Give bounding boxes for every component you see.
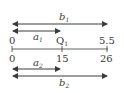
arrow-a1: a1: [13, 31, 60, 43]
label-a1: a1: [33, 31, 43, 43]
top-scale-right: 5.5: [99, 35, 115, 46]
bottom-scale-left: 0: [9, 53, 15, 64]
arrow-b1: b1: [13, 11, 107, 24]
number-line-diagram: b1 a1 0 Q1 5.5 0 15 26 a2 b2: [0, 0, 124, 93]
label-a2: a2: [33, 57, 43, 69]
arrow-a2: a2: [13, 57, 60, 69]
bottom-scale-right: 26: [100, 53, 113, 64]
bottom-scale-mid: 15: [56, 53, 69, 64]
label-b2: b2: [59, 77, 69, 89]
arrow-b2: b2: [13, 76, 107, 89]
number-line: [12, 46, 108, 52]
label-b1: b1: [59, 11, 69, 23]
top-scale-left: 0: [9, 35, 15, 46]
top-scale-q1: Q1: [56, 35, 68, 47]
